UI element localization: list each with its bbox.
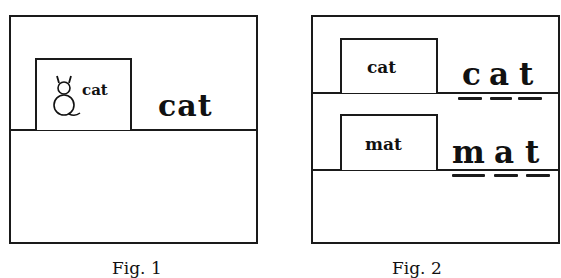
underline-dash xyxy=(518,97,542,100)
fig1-picture-card: cat xyxy=(35,58,132,130)
letter-a: a xyxy=(494,134,514,170)
fig2-card-cat: cat xyxy=(340,38,438,93)
letter-m: m xyxy=(452,134,485,170)
fig2-card-label-mat: mat xyxy=(365,134,402,154)
underline-dash xyxy=(490,97,512,100)
underline-dash xyxy=(458,97,482,100)
fig2-caption: Fig. 2 xyxy=(392,258,442,278)
letter-t: t xyxy=(525,134,539,170)
fig2-card-label-cat: cat xyxy=(367,57,396,77)
letter-c: c xyxy=(462,56,481,92)
cat-drawing-icon xyxy=(51,72,81,122)
fig1-card-label: cat xyxy=(82,81,108,99)
fig1-caption: Fig. 1 xyxy=(112,258,162,278)
underline-dash xyxy=(526,174,550,177)
fig1-word: cat xyxy=(158,88,213,123)
letter-t: t xyxy=(519,56,533,92)
underline-dash xyxy=(494,174,518,177)
fig2-card-mat: mat xyxy=(340,114,438,170)
underline-dash xyxy=(452,174,485,177)
letter-a: a xyxy=(489,56,509,92)
